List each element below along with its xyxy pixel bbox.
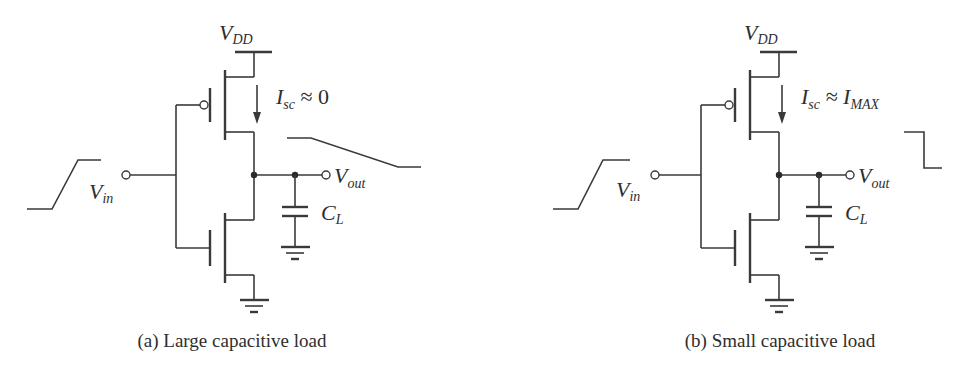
output-slow-ramp-waveform-a xyxy=(287,138,421,167)
pmos-gate-bubble-b xyxy=(725,101,733,109)
caption-b: (b) Small capacitive load xyxy=(685,330,876,352)
vin-label-b: Vin xyxy=(616,177,640,204)
ground-symbol-b xyxy=(765,300,794,312)
pmos-gate-bubble-a xyxy=(200,101,208,109)
cmos-inverter-figure: Vin VDD Isc ≈ 0 Vout xyxy=(0,0,954,366)
vout-label-b: Vout xyxy=(858,163,890,191)
output-terminal-a xyxy=(322,171,330,179)
pmos-transistor-b xyxy=(701,70,779,140)
input-terminal-a xyxy=(122,171,130,179)
caption-a: (a) Large capacitive load xyxy=(137,330,327,352)
vin-label-a: Vin xyxy=(89,179,113,206)
input-terminal-b xyxy=(651,171,659,179)
ground-symbol-a xyxy=(240,300,269,312)
junction-dot-b1 xyxy=(776,172,782,178)
junction-dot-a1 xyxy=(251,172,257,178)
short-circuit-current-arrow-a xyxy=(253,85,261,124)
panel-a-large-capacitive-load: Vin VDD Isc ≈ 0 Vout xyxy=(27,20,421,352)
output-fast-step-waveform-b xyxy=(904,132,942,168)
nmos-transistor-b xyxy=(701,213,779,300)
cl-label-b: CL xyxy=(845,200,868,227)
cl-label-a: CL xyxy=(321,200,344,227)
vdd-label-a: VDD xyxy=(219,20,253,47)
output-terminal-b xyxy=(846,171,854,179)
panel-b-circuit: Vin VDD Isc ≈ IMAX Vout xyxy=(553,20,942,352)
short-circuit-current-arrow-b xyxy=(778,85,786,124)
load-capacitor-b xyxy=(805,175,834,259)
vdd-label-b: VDD xyxy=(744,20,778,47)
isc-label-a: Isc ≈ 0 xyxy=(275,84,329,112)
isc-label-b: Isc ≈ IMAX xyxy=(800,84,880,112)
pmos-transistor-a xyxy=(176,70,254,140)
vout-label-a: Vout xyxy=(334,163,366,191)
load-capacitor-a xyxy=(281,175,310,259)
nmos-transistor-a xyxy=(176,213,254,300)
